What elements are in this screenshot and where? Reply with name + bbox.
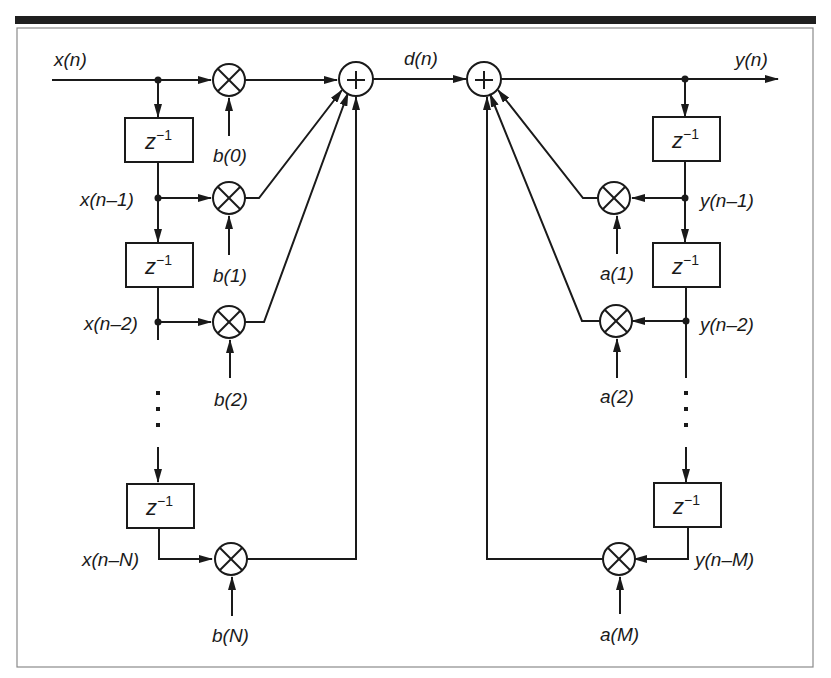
adder-feedback xyxy=(467,62,501,96)
label-x-n-1: x(n–1) xyxy=(79,189,134,210)
multiplier-a2 xyxy=(600,305,632,337)
label-x-n-2: x(n–2) xyxy=(83,313,138,334)
feedback-section: z−1 z−1 z−1 xyxy=(487,76,778,615)
label-x-n: x(n) xyxy=(53,49,87,70)
multiplier-b0 xyxy=(213,64,245,96)
label-b0: b(0) xyxy=(213,145,247,166)
multiplier-b1 xyxy=(213,182,245,214)
multiplier-a1 xyxy=(598,182,630,214)
multiplier-b2 xyxy=(213,306,245,338)
multiplier-aM xyxy=(603,543,635,575)
label-b2: b(2) xyxy=(214,389,248,410)
label-y-n-1: y(n–1) xyxy=(698,190,754,211)
multiplier-bN xyxy=(215,543,247,575)
label-y-n-2: y(n–2) xyxy=(698,314,754,335)
iir-direct-form-diagram: z−1 z−1 z−1 xyxy=(0,0,831,678)
label-aM: a(M) xyxy=(600,624,639,645)
label-bN: b(N) xyxy=(212,625,249,646)
label-y-n: y(n) xyxy=(733,49,768,70)
adder-feedforward xyxy=(339,62,373,96)
label-y-n-M: y(n–M) xyxy=(693,549,754,570)
label-a2: a(2) xyxy=(600,386,634,407)
label-b1: b(1) xyxy=(213,265,247,286)
top-rule xyxy=(15,16,816,24)
label-a1: a(1) xyxy=(600,263,634,284)
label-x-n-N: x(n–N) xyxy=(81,549,139,570)
feedforward-section: z−1 z−1 z−1 xyxy=(52,64,356,616)
label-d-n: d(n) xyxy=(404,48,438,69)
